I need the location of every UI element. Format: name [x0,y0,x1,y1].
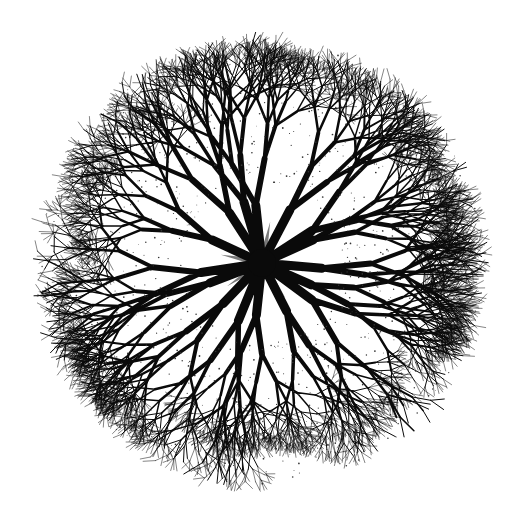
twig-dot [376,163,377,164]
twig-dot [404,325,405,326]
twig-dot [410,160,411,161]
twig-dot [447,325,448,326]
twig-dot [291,145,292,146]
twig-dot [123,271,124,272]
twig-dot [388,250,389,251]
twig-dot [460,203,461,204]
twig-dot [165,119,166,120]
twig-dot [298,188,299,189]
twig-dot [382,166,383,167]
twig-dot [237,368,238,369]
twig-dot [395,168,397,170]
twig-dot [351,193,352,194]
twig-dot [153,265,154,266]
twig-dot [348,68,350,70]
twig-dot [122,320,124,322]
twig-dot [261,483,263,485]
twig-dot [180,352,182,354]
twig-dot [434,167,435,168]
twig-dot [91,333,93,335]
twig-dot [244,53,245,54]
twig-dot [201,332,203,334]
twig-dot [404,335,405,336]
twig-dot [448,372,449,373]
twig-dot [230,154,231,155]
twig-dot [344,243,346,245]
twig-dot [121,370,122,371]
twig-dot [125,314,126,315]
twig-dot [169,373,170,374]
twig-dot [326,342,327,343]
twig-dot [362,273,364,275]
twig-dot [318,116,319,117]
twig-dot [349,261,350,262]
twig-dot [339,194,341,196]
twig-dot [249,345,251,347]
twig-dot [130,204,131,205]
twig-dot [328,410,330,412]
twig-dot [339,172,340,173]
twig-dot [363,451,364,452]
twig-dot [271,120,272,121]
twig-dot [87,279,88,280]
twig-dot [182,95,184,97]
twig-dot [452,230,454,232]
twig-dot [366,354,367,355]
twig-dot [253,141,255,143]
twig-dot [194,123,195,124]
twig-dot [96,384,97,385]
twig-dot [79,376,81,378]
twig-dot [317,396,318,397]
twig-dot [318,109,319,110]
twig-dot [343,156,344,157]
twig-dot [208,194,209,195]
twig-dot [391,380,392,381]
twig-dot [114,161,115,162]
twig-dot [91,324,93,326]
twig-dot [450,338,452,340]
twig-dot [95,315,97,317]
twig-dot [154,237,156,239]
twig-dot [221,83,222,84]
twig-dot [378,132,379,133]
twig-dot [272,362,273,363]
twig-dot [235,342,236,343]
twig-dot [396,436,397,437]
twig-dot [126,101,127,102]
twig-dot [328,420,329,421]
twig-dot [455,310,457,312]
twig-dot [374,244,376,246]
twig-dot [173,336,175,338]
twig-dot [293,391,294,392]
twig-dot [346,108,347,109]
twig-dot [295,88,297,90]
twig-dot [309,405,310,406]
twig-dot [112,232,113,233]
twig-dot [339,112,340,113]
twig-dot [406,239,407,240]
twig-dot [46,213,47,214]
twig-dot [179,450,180,451]
twig-dot [161,240,162,241]
twig-dot [276,372,278,374]
twig-dot [380,291,381,292]
twig-dot [189,81,190,82]
twig-dot [300,70,301,71]
twig-dot [180,392,181,393]
twig-dot [309,106,310,107]
twig-dot [437,253,438,254]
twig-dot [474,208,476,210]
twig-dot [200,79,201,80]
twig-dot [182,308,184,310]
twig-dot [315,344,317,346]
twig-dot [191,211,192,212]
twig-dot [370,205,372,207]
twig-dot [179,193,180,194]
twig-dot [151,218,152,219]
twig-dot [404,336,406,338]
twig-dot [194,217,195,218]
twig-dot [347,248,348,249]
twig-dot [163,124,164,125]
twig-dot [71,365,73,367]
twig-dot [230,348,231,349]
